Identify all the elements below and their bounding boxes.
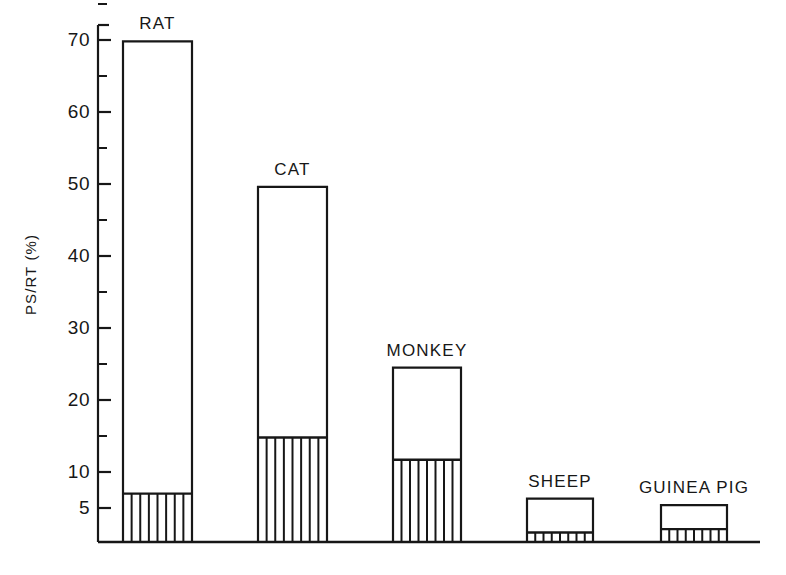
axis-group <box>98 4 760 542</box>
bar-outline <box>123 41 192 542</box>
bar-label-rat: RAT <box>68 15 248 32</box>
bar-label-cat: CAT <box>203 161 383 178</box>
bar-chart-figure: PS/RT (%) 706050403020105 RATCATMONKEYSH… <box>0 0 786 575</box>
y-tick-label: 60 <box>68 102 90 121</box>
bars-group <box>123 41 727 542</box>
y-tick-label: 40 <box>68 246 90 265</box>
y-axis-title: PS/RT (%) <box>22 215 39 335</box>
bar-label-guinea-pig: GUINEA PIG <box>604 479 784 496</box>
bar-label-monkey: MONKEY <box>337 342 517 359</box>
y-tick-label: 70 <box>68 30 90 49</box>
y-tick-label: 20 <box>68 390 90 409</box>
y-tick-label: 5 <box>79 498 90 517</box>
y-tick-label: 30 <box>68 318 90 337</box>
y-tick-label: 50 <box>68 174 90 193</box>
y-tick-label: 10 <box>68 462 90 481</box>
